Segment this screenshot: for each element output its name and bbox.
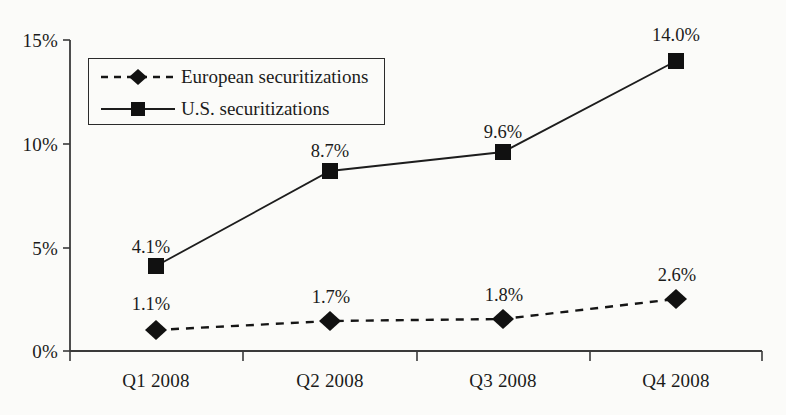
data-label-eu-q1: 1.1%	[108, 295, 194, 314]
x-axis-tick-label-q1-2008: Q1 2008	[86, 371, 226, 390]
data-label-eu-q3: 1.8%	[461, 286, 547, 305]
y-axis-tick-label-10: 10%	[2, 135, 58, 154]
data-label-us-q2: 8.7%	[287, 142, 373, 161]
series-line-european-securitizations	[156, 299, 676, 330]
series-marker-eu-q4	[665, 289, 687, 309]
data-label-us-q3: 9.6%	[460, 123, 546, 142]
series-marker-us-q2	[322, 163, 338, 179]
legend-item-us-securitizations[interactable]: U.S. securitizations	[89, 92, 384, 125]
square-marker-icon	[101, 98, 175, 120]
data-label-eu-q4: 2.6%	[634, 266, 720, 285]
data-label-us-q1: 4.1%	[108, 238, 194, 257]
legend-label-us-securitizations: U.S. securitizations	[181, 99, 329, 118]
diamond-marker-icon	[101, 66, 175, 88]
chart-legend: European securitizations U.S. securitiza…	[88, 58, 385, 125]
y-axis-tick-label-5: 5%	[2, 239, 58, 258]
series-marker-us-q1	[148, 258, 164, 274]
series-marker-eu-q3	[492, 309, 514, 329]
series-marker-eu-q1	[145, 320, 167, 340]
x-axis-tick-label-q2-2008: Q2 2008	[260, 371, 400, 390]
line-chart: 15% 10% 5% 0% Q1 2008 Q2 2008 Q3 2008 Q4…	[0, 0, 786, 415]
series-marker-us-q4	[668, 53, 684, 69]
x-axis-tick-label-q3-2008: Q3 2008	[433, 371, 573, 390]
series-marker-eu-q2	[319, 311, 341, 331]
data-label-us-q4: 14.0%	[628, 26, 724, 45]
y-axis-tick-label-0: 0%	[2, 342, 58, 361]
legend-label-european-securitizations: European securitizations	[181, 67, 368, 86]
data-label-eu-q2: 1.7%	[288, 288, 374, 307]
y-axis-tick-label-15: 15%	[2, 31, 58, 50]
series-marker-us-q3	[495, 144, 511, 160]
legend-item-european-securitizations[interactable]: European securitizations	[89, 60, 384, 93]
x-axis-tick-label-q4-2008: Q4 2008	[606, 371, 746, 390]
